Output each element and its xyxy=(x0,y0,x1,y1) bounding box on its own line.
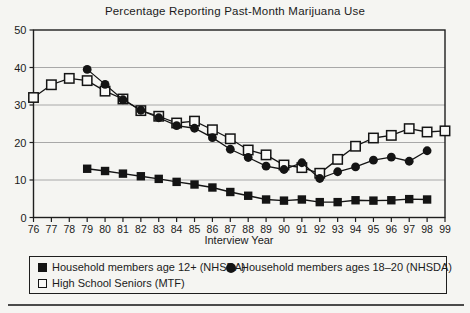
x-tick-label: 91 xyxy=(296,223,308,235)
open-square-marker-icon xyxy=(387,131,396,140)
filled-square-marker-icon xyxy=(369,196,377,204)
series-filled-circle xyxy=(83,65,432,183)
filled-circle-marker-icon xyxy=(101,80,110,89)
filled-square-marker-icon xyxy=(226,188,234,196)
filled-square-marker-icon xyxy=(119,169,127,177)
filled-circle-marker-icon xyxy=(226,145,235,154)
x-tick-label: 84 xyxy=(171,223,183,235)
filled-circle-marker-icon xyxy=(280,165,289,174)
x-tick-label: 96 xyxy=(385,223,397,235)
filled-square-marker-icon xyxy=(101,167,109,175)
filled-circle-marker-icon xyxy=(351,162,360,171)
x-tick-label: 76 xyxy=(28,223,40,235)
x-tick-label: 97 xyxy=(403,223,415,235)
x-tick-label: 78 xyxy=(63,223,75,235)
open-square-marker-icon xyxy=(29,93,38,102)
legend-item-ages-18-20: Household members ages 18–20 (NHSDA) xyxy=(226,261,452,273)
open-square-marker-icon xyxy=(208,125,217,134)
x-tick-label: 85 xyxy=(189,223,201,235)
y-tick-label: 10 xyxy=(14,174,26,186)
open-square-marker-icon xyxy=(351,142,360,151)
open-square-marker-icon xyxy=(405,124,414,133)
filled-square-marker-icon xyxy=(172,178,180,186)
legend-item-age-12-plus: Household members age 12+ (NHSDA) xyxy=(38,261,246,273)
x-tick-label: 94 xyxy=(350,223,362,235)
filled-square-marker-icon xyxy=(38,263,47,272)
series-open-square xyxy=(29,74,450,178)
y-axis: 01020304050 xyxy=(14,24,33,224)
x-axis: 7677787980818283848586878889909192939495… xyxy=(28,218,451,235)
filled-square-marker-icon xyxy=(423,195,431,203)
filled-circle-marker-icon xyxy=(119,95,128,104)
open-square-marker-icon xyxy=(82,76,91,85)
filled-circle-marker-icon xyxy=(423,146,432,155)
x-tick-label: 77 xyxy=(46,223,58,235)
x-tick-label: 82 xyxy=(135,223,147,235)
chart-plot: 0102030405076777879808182838485868788899… xyxy=(0,0,470,250)
filled-circle-marker-icon xyxy=(387,153,396,162)
y-tick-label: 0 xyxy=(20,212,26,224)
filled-circle-marker-icon xyxy=(154,113,163,122)
x-tick-label: 81 xyxy=(117,223,129,235)
filled-square-marker-icon xyxy=(298,195,306,203)
x-tick-label: 99 xyxy=(439,223,451,235)
filled-square-marker-icon xyxy=(387,196,395,204)
filled-square-marker-icon xyxy=(316,198,324,206)
open-square-marker-icon xyxy=(47,80,56,89)
open-square-marker-icon xyxy=(333,155,342,164)
open-square-marker-icon xyxy=(440,126,449,135)
filled-square-marker-icon xyxy=(155,175,163,183)
horizontal-rule xyxy=(8,304,464,306)
filled-circle-marker-icon xyxy=(83,65,92,74)
series-filled-square xyxy=(83,165,431,207)
filled-circle-marker-icon xyxy=(244,153,253,162)
filled-circle-marker-icon xyxy=(369,156,378,165)
open-square-marker-icon xyxy=(369,133,378,142)
x-tick-label: 92 xyxy=(314,223,326,235)
x-tick-label: 79 xyxy=(81,223,93,235)
open-square-marker-icon xyxy=(38,279,47,288)
filled-square-marker-icon xyxy=(351,196,359,204)
filled-circle-marker-icon xyxy=(190,124,199,133)
open-square-marker-icon xyxy=(226,134,235,143)
filled-circle-marker-icon xyxy=(172,121,181,130)
filled-circle-marker-icon xyxy=(136,106,145,115)
legend-item-label: Household members ages 18–20 (NHSDA) xyxy=(241,261,452,273)
y-tick-label: 20 xyxy=(14,137,26,149)
filled-square-marker-icon xyxy=(280,196,288,204)
filled-circle-marker-icon xyxy=(262,162,271,171)
open-square-marker-icon xyxy=(422,127,431,136)
x-tick-label: 87 xyxy=(224,223,236,235)
filled-circle-marker-icon xyxy=(226,263,236,273)
y-tick-label: 30 xyxy=(14,99,26,111)
filled-circle-marker-icon xyxy=(315,174,324,183)
filled-square-marker-icon xyxy=(405,195,413,203)
x-axis-label: Interview Year xyxy=(33,234,445,246)
filled-square-marker-icon xyxy=(83,165,91,173)
filled-square-marker-icon xyxy=(190,180,198,188)
filled-square-marker-icon xyxy=(244,192,252,200)
gridlines xyxy=(34,68,446,181)
legend-item-hs-seniors: High School Seniors (MTF) xyxy=(38,277,185,289)
x-tick-label: 93 xyxy=(332,223,344,235)
x-tick-label: 83 xyxy=(153,223,165,235)
filled-circle-marker-icon xyxy=(297,158,306,167)
x-tick-label: 90 xyxy=(278,223,290,235)
legend-item-label: Household members age 12+ (NHSDA) xyxy=(52,261,246,273)
open-square-marker-icon xyxy=(261,150,270,159)
filled-square-marker-icon xyxy=(137,172,145,180)
filled-circle-marker-icon xyxy=(405,157,414,166)
y-tick-label: 40 xyxy=(14,62,26,74)
x-tick-label: 86 xyxy=(207,223,219,235)
open-square-marker-icon xyxy=(65,74,74,83)
x-tick-label: 95 xyxy=(368,223,380,235)
legend: Household members age 12+ (NHSDA) Househ… xyxy=(29,256,447,294)
legend-item-label: High School Seniors (MTF) xyxy=(52,277,185,289)
filled-square-marker-icon xyxy=(208,183,216,191)
plot-border xyxy=(34,30,446,218)
x-tick-label: 88 xyxy=(242,223,254,235)
x-tick-label: 98 xyxy=(421,223,433,235)
y-tick-label: 50 xyxy=(14,24,26,36)
x-tick-label: 89 xyxy=(260,223,272,235)
filled-circle-marker-icon xyxy=(333,167,342,176)
